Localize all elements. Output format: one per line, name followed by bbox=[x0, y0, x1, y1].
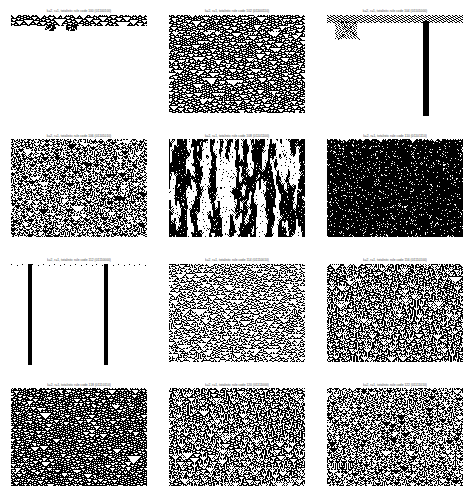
ca-panel-cell: k=2, r=1, totalistic rule code 102 (0110… bbox=[158, 0, 316, 125]
panel-caption: k=2, r=1, totalistic rule code 120 (0111… bbox=[205, 383, 269, 387]
ca-evolution-plot bbox=[327, 264, 463, 365]
ca-evolution-plot bbox=[169, 15, 305, 116]
panel-caption: k=2, r=1, totalistic rule code 118 (0111… bbox=[47, 383, 111, 387]
ca-evolution-plot bbox=[11, 139, 147, 240]
panel-caption: k=2, r=1, totalistic rule code 100 (0110… bbox=[47, 9, 111, 13]
panel-caption: k=2, r=1, totalistic rule code 108 (0110… bbox=[205, 134, 269, 138]
ca-panel-canvas bbox=[327, 139, 463, 240]
ca-panel-cell: k=2, r=1, totalistic rule code 118 (0111… bbox=[0, 374, 158, 498]
panel-caption: k=2, r=1, totalistic rule code 114 (0111… bbox=[205, 258, 269, 262]
ca-evolution-plot bbox=[169, 139, 305, 240]
ca-panel-canvas bbox=[327, 388, 463, 489]
ca-evolution-plot bbox=[327, 139, 463, 240]
ca-rule-gallery-figure: k=2, r=1, totalistic rule code 100 (0110… bbox=[0, 0, 474, 498]
ca-evolution-plot bbox=[11, 15, 147, 116]
ca-panel-cell: k=2, r=1, totalistic rule code 110 (0110… bbox=[316, 125, 474, 250]
panel-caption: k=2, r=1, totalistic rule code 122 (0111… bbox=[363, 383, 427, 387]
panel-caption: k=2, r=1, totalistic rule code 110 (0110… bbox=[363, 134, 427, 138]
ca-panel-cell: k=2, r=1, totalistic rule code 120 (0111… bbox=[158, 374, 316, 498]
ca-panel-cell: k=2, r=1, totalistic rule code 112 (0111… bbox=[0, 249, 158, 374]
ca-panel-cell: k=2, r=1, totalistic rule code 106 (0110… bbox=[0, 125, 158, 250]
ca-panel-canvas bbox=[11, 139, 147, 240]
ca-panel-canvas bbox=[11, 15, 147, 116]
ca-panel-canvas bbox=[169, 264, 305, 365]
ca-panel-cell: k=2, r=1, totalistic rule code 100 (0110… bbox=[0, 0, 158, 125]
ca-evolution-plot bbox=[169, 264, 305, 365]
ca-panel-canvas bbox=[169, 139, 305, 240]
ca-evolution-plot bbox=[11, 388, 147, 489]
ca-panel-canvas bbox=[11, 388, 147, 489]
ca-evolution-plot bbox=[11, 264, 147, 365]
ca-panel-cell: k=2, r=1, totalistic rule code 114 (0111… bbox=[158, 249, 316, 374]
ca-panel-canvas bbox=[169, 388, 305, 489]
panel-caption: k=2, r=1, totalistic rule code 102 (0110… bbox=[205, 9, 269, 13]
ca-panel-cell: k=2, r=1, totalistic rule code 104 (0110… bbox=[316, 0, 474, 125]
ca-panel-cell: k=2, r=1, totalistic rule code 108 (0110… bbox=[158, 125, 316, 250]
ca-evolution-plot bbox=[169, 388, 305, 489]
panel-caption: k=2, r=1, totalistic rule code 104 (0110… bbox=[363, 9, 427, 13]
ca-panel-canvas bbox=[169, 15, 305, 116]
panel-grid: k=2, r=1, totalistic rule code 100 (0110… bbox=[0, 0, 474, 498]
panel-caption: k=2, r=1, totalistic rule code 116 (0111… bbox=[363, 258, 427, 262]
ca-evolution-plot bbox=[327, 15, 463, 116]
panel-caption: k=2, r=1, totalistic rule code 112 (0111… bbox=[47, 258, 111, 262]
ca-evolution-plot bbox=[327, 388, 463, 489]
ca-panel-cell: k=2, r=1, totalistic rule code 116 (0111… bbox=[316, 249, 474, 374]
ca-panel-canvas bbox=[327, 15, 463, 116]
ca-panel-canvas bbox=[11, 264, 147, 365]
ca-panel-canvas bbox=[327, 264, 463, 365]
panel-caption: k=2, r=1, totalistic rule code 106 (0110… bbox=[47, 134, 111, 138]
ca-panel-cell: k=2, r=1, totalistic rule code 122 (0111… bbox=[316, 374, 474, 498]
